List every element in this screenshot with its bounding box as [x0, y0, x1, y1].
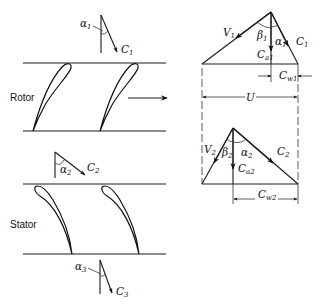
alpha1-triangle-arc — [271, 25, 278, 27]
alpha1-arc — [101, 31, 108, 34]
rotor-label: Rotor — [10, 92, 35, 103]
diagram-canvas: α1 C1 Rotor α2 C2 Stator α3 C3 — [0, 0, 325, 307]
c1-triangle-label: C1 — [296, 35, 309, 49]
c2-triangle-arrow — [233, 128, 273, 163]
stator-row: Stator — [10, 184, 166, 254]
alpha1-label: α1 — [80, 17, 92, 31]
c1-label: C1 — [121, 43, 134, 57]
outlet-velocity-vector: α3 C3 — [75, 260, 129, 299]
stator-blade-2 — [102, 186, 139, 254]
turbine-stage-diagram: α1 C1 Rotor α2 C2 Stator α3 C3 — [0, 0, 325, 307]
alpha2-label: α2 — [60, 163, 72, 177]
alpha3-arc — [100, 274, 106, 276]
alpha1-triangle-label: α1 — [275, 35, 287, 49]
alpha2-triangle-arc — [233, 139, 246, 143]
c3-label: C3 — [116, 285, 129, 299]
c2-triangle-label: C2 — [277, 145, 290, 159]
stator-blade-1 — [35, 186, 72, 254]
alpha3-leader — [88, 268, 101, 274]
c1-arrow — [101, 15, 117, 52]
rotor-blade-1 — [33, 64, 71, 131]
ca2-label: Ca2 — [238, 162, 255, 176]
c2-label: C2 — [87, 161, 100, 175]
alpha3-label: α3 — [75, 260, 87, 274]
alpha2-triangle-label: α2 — [241, 146, 253, 160]
cw1-label: Cw1 — [279, 69, 298, 83]
rotor-row: Rotor — [10, 63, 167, 131]
beta2-arc — [227, 139, 233, 142]
u-label: U — [246, 91, 256, 103]
beta1-label: β1 — [256, 29, 268, 43]
rotor-blade-2 — [100, 64, 138, 131]
blade-speed-dimension: U — [202, 68, 298, 184]
cw2-label: Cw2 — [258, 188, 277, 202]
v1-label: V1 — [223, 26, 235, 40]
inlet-velocity-vector: α1 C1 — [80, 15, 134, 57]
interstage-velocity-vector: α2 C2 — [55, 152, 100, 178]
velocity-triangle-exit: V2 β2 α2 C2 Ca2 Cw2 — [202, 128, 298, 204]
velocity-triangle-inlet: V1 β1 α1 C1 Ca1 Cw1 — [202, 12, 312, 83]
stator-label: Stator — [10, 219, 37, 230]
beta1-arc — [258, 23, 271, 28]
beta2-label: β2 — [221, 146, 233, 160]
v2-label: V2 — [204, 143, 217, 157]
